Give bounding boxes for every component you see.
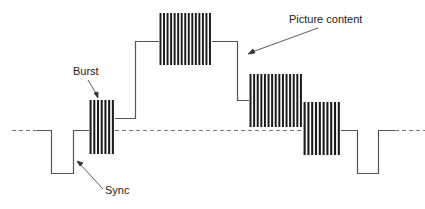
picture-block-2-bars — [250, 74, 302, 127]
waveform-diagram — [0, 0, 425, 209]
picture-content-arrow — [248, 28, 318, 54]
burst-label: Burst — [73, 66, 99, 77]
picture-content-label: Picture content — [289, 14, 362, 25]
sync-arrow — [77, 161, 103, 189]
sync-label: Sync — [105, 185, 129, 196]
picture-block-1-bars — [160, 13, 211, 65]
picture-block-3-bars — [304, 102, 340, 155]
burst-arrow — [88, 80, 98, 98]
burst-bars — [90, 100, 114, 154]
